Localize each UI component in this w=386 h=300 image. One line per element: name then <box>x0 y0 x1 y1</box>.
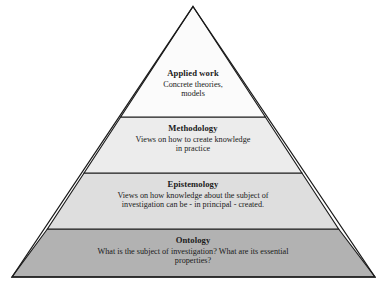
pyramid-band-ontology <box>12 229 375 277</box>
pyramid-band-applied-work <box>121 7 266 118</box>
pyramid-band-methodology <box>84 117 302 173</box>
research-philosophy-pyramid: Applied work Concrete theories, models M… <box>0 0 386 300</box>
pyramid-band-epistemology <box>47 173 338 229</box>
pyramid-shape <box>0 0 386 300</box>
